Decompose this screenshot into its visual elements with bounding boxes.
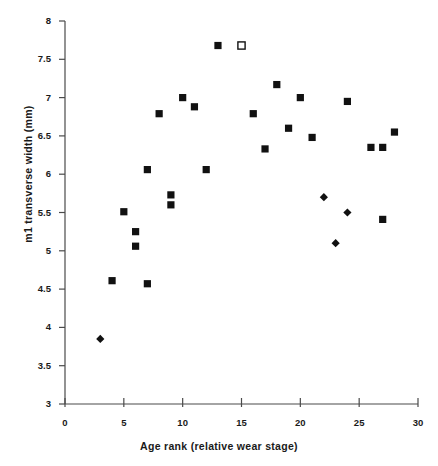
y-axis-title: m1 transverse width (mm) [22, 74, 34, 274]
x-tick-label: 15 [229, 417, 255, 428]
data-point-filled-square [391, 128, 398, 135]
data-point-diamond [332, 239, 340, 247]
data-point-filled-square [367, 144, 374, 151]
data-point-filled-square [156, 110, 163, 117]
data-point-diamond [96, 335, 104, 343]
data-point-filled-square [379, 144, 386, 151]
data-markers-group [96, 42, 398, 343]
data-point-filled-square [191, 103, 198, 110]
data-point-filled-square [250, 110, 257, 117]
data-point-filled-square [297, 94, 304, 101]
data-point-filled-square [203, 166, 210, 173]
y-tick-label: 3 [17, 398, 51, 409]
data-point-filled-square [167, 201, 174, 208]
scatter-plot-figure: 33.544.555.566.577.58 051015202530 m1 tr… [0, 0, 438, 466]
y-tick-label: 4.5 [17, 283, 51, 294]
data-point-filled-square [261, 145, 268, 152]
x-tick-label: 5 [111, 417, 137, 428]
data-point-filled-square [132, 228, 139, 235]
x-tick-label: 0 [52, 417, 78, 428]
data-point-filled-square [285, 125, 292, 132]
data-point-open-square [238, 42, 245, 49]
data-point-filled-square [309, 134, 316, 141]
data-point-filled-square [167, 191, 174, 198]
data-point-diamond [343, 208, 351, 216]
y-tick-label: 4 [17, 321, 51, 332]
data-point-filled-square [214, 42, 221, 49]
plot-canvas [0, 0, 438, 466]
y-tick-label: 7.5 [17, 53, 51, 64]
data-point-filled-square [379, 216, 386, 223]
data-point-filled-square [144, 280, 151, 287]
x-tick-label: 30 [405, 417, 431, 428]
y-tick-label: 3.5 [17, 360, 51, 371]
data-point-diamond [320, 193, 328, 201]
x-axis-title: Age rank (relative wear stage) [0, 440, 438, 452]
x-tick-label: 20 [287, 417, 313, 428]
data-point-filled-square [144, 166, 151, 173]
axes-group [59, 21, 418, 407]
data-point-filled-square [344, 98, 351, 105]
data-point-filled-square [273, 81, 280, 88]
data-point-filled-square [120, 208, 127, 215]
data-point-filled-square [132, 243, 139, 250]
x-tick-label: 10 [170, 417, 196, 428]
y-tick-label: 8 [17, 15, 51, 26]
data-point-filled-square [179, 94, 186, 101]
x-tick-label: 25 [346, 417, 372, 428]
data-point-filled-square [108, 277, 115, 284]
